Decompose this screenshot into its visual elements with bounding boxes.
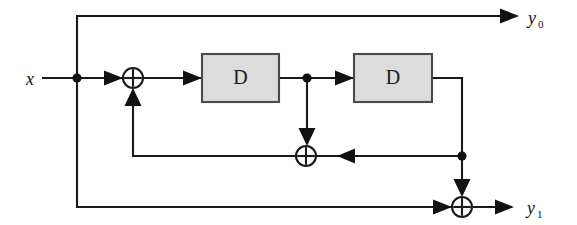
delay-block-1-label: D [233,66,247,88]
arrow-head-adder3-left-in [433,200,452,215]
wire-input-to-y0 [76,9,519,79]
arrow-head-y1 [495,200,514,215]
wire-tap-to-adder2 [316,149,462,164]
arrow-head-y0 [500,9,519,24]
wire-adder1-to-delay1 [143,71,202,86]
delay-block-2[interactable]: D [354,54,432,102]
input-tap-node [72,73,81,82]
output-top-label: y 0 [526,8,544,30]
input-label: x [25,69,34,89]
arrow-head-adder2-right-in [337,149,355,164]
diagram-canvas: D D x [0,0,577,225]
block-diagram-figure: D D x [0,0,577,225]
wire-segment-feedback-to-adder1 [133,97,296,156]
output-top-label-subscript: 0 [538,18,544,30]
output-top-label-text: y [526,8,536,28]
arrow-head-adder1-in [104,71,123,86]
wire-x-to-adder1 [42,71,123,86]
wire-tap-to-adder3 [454,156,471,197]
output-bottom-label: y 1 [525,198,543,220]
wire-delay1-to-delay2 [279,71,354,86]
output-bottom-label-subscript: 1 [537,208,543,220]
arrow-head-delay2-in [335,71,354,86]
arrow-head-adder1-bottom-in [125,88,142,106]
delay2-output-tap-node [457,151,466,160]
wire-adder3-to-y1 [472,200,514,215]
wire-delay2-to-tap [432,78,462,156]
delay1-output-tap-node [302,73,311,82]
arrow-head-delay1-in [183,71,202,86]
arrow-head-adder3-top-in [454,179,471,197]
delay-block-1[interactable]: D [202,54,279,102]
wire-segment-delay2-right-down [432,78,462,156]
xor-adder-input[interactable] [123,68,143,88]
input-label-text: x [25,69,34,89]
xor-adder-middle[interactable] [296,146,316,166]
wire-delay1tap-to-adder2 [299,78,316,146]
arrow-head-adder2-top-in [299,128,316,146]
xor-adder-output[interactable] [452,197,472,217]
output-bottom-label-text: y [525,198,535,218]
delay-block-2-label: D [386,66,400,88]
